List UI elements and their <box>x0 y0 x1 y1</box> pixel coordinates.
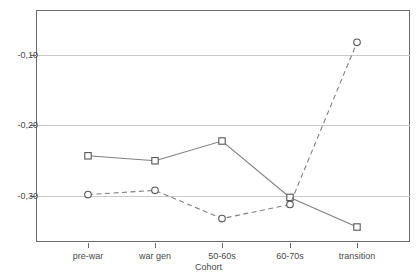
ytick-label-0-10: -0,10 <box>0 51 38 60</box>
xtick-mark-war-gen <box>155 243 156 248</box>
ytick-label-0-30: -0,30 <box>0 192 38 201</box>
plot-area-frame <box>36 10 410 242</box>
xtick-mark-60-70s <box>290 243 291 248</box>
xtick-mark-50-60s <box>222 243 223 248</box>
gridline-y-0-20 <box>36 125 410 126</box>
xtick-mark-pre-war <box>88 243 89 248</box>
gridline-y-0-30 <box>36 196 410 197</box>
gridline-y-0-10 <box>36 55 410 56</box>
x-axis-title: Cohort <box>0 262 417 272</box>
chart-title-remnant <box>96 0 246 2</box>
xtick-label-transition: transition <box>317 251 397 261</box>
ytick-label-0-20: -0,20 <box>0 121 38 130</box>
xtick-mark-transition <box>357 243 358 248</box>
chart-container: -0,10 -0,20 -0,30 pre-war war gen 50-60s… <box>0 0 417 273</box>
